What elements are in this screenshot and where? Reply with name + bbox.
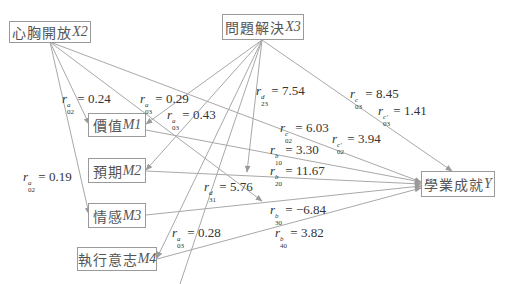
node-x2: 心胸開放X2	[9, 21, 91, 43]
node-m3-var: M3	[123, 208, 142, 224]
node-m2-var: M2	[123, 163, 142, 179]
coef-b30: rb30 = −6.84	[270, 203, 326, 227]
coef-c02-prime: rc'02 = 3.94	[332, 132, 381, 156]
coef-b40: rb40 = 3.82	[275, 226, 324, 250]
node-y-name: 學業成就	[424, 174, 484, 194]
coef-d23: rd23 = 7.54	[256, 84, 305, 108]
node-y-var: Y	[484, 176, 492, 192]
node-m2: 預期M2	[88, 158, 146, 183]
node-m1: 價值M1	[88, 113, 146, 137]
coef-a02-m1: ra02 = 0.24	[62, 92, 111, 116]
edge-x2-m3-d	[50, 42, 262, 201]
node-x3: 問題解決X3	[222, 14, 304, 40]
node-x2-name: 心胸開放	[12, 22, 72, 42]
coef-d31: rd31 = 5.76	[204, 180, 253, 204]
node-m3: 情感M3	[88, 203, 146, 228]
coef-a02-m3: ra02 = 0.19	[23, 170, 72, 194]
coef-b20: rb20 = 11.67	[270, 164, 325, 188]
node-m4-name: 執行意志	[78, 249, 138, 269]
node-m3-name: 情感	[93, 206, 123, 226]
node-m1-name: 價值	[93, 115, 123, 135]
node-x3-name: 問題解決	[225, 17, 285, 37]
coef-a03-m4: ra03 = 0.28	[172, 226, 221, 250]
coef-c03-prime: rc'03 = 1.41	[378, 104, 427, 128]
node-m4-var: M4	[138, 251, 157, 267]
node-x3-var: X3	[285, 19, 301, 35]
node-m2-name: 預期	[93, 161, 123, 181]
node-m4: 執行意志M4	[77, 247, 157, 271]
node-x2-var: X2	[72, 24, 88, 40]
node-m1-var: M1	[123, 117, 142, 133]
node-y: 學業成就Y	[421, 171, 495, 197]
coef-a03-m2: ra03 = 0.43	[167, 108, 216, 132]
